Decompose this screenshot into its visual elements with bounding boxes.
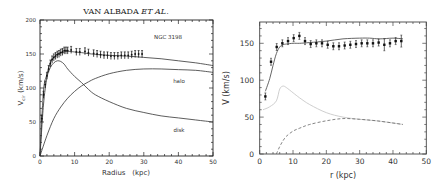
data-point [338,45,340,47]
dark-component-curve [276,119,403,154]
svg-text:10: 10 [71,158,79,165]
svg-text:0: 0 [257,157,262,166]
svg-text:20: 20 [322,157,332,166]
svg-text:0: 0 [38,158,42,165]
svg-text:30: 30 [355,157,365,166]
data-point [377,41,379,43]
disk-curve [40,61,213,156]
svg-text:30: 30 [140,158,148,165]
data-point [120,54,122,56]
data-point [67,50,69,52]
data-point [315,42,317,44]
data-point [84,50,86,52]
data-point [134,53,136,55]
right-y-axis-label: V (km/s) [222,71,231,105]
data-point [124,54,126,56]
data-point [389,42,391,44]
right-data-points [264,32,402,100]
left-y-tick-labels: 0 50 100 150 200 [26,17,37,159]
data-point [343,44,345,46]
figure: VAN ALBADA ET AL. 0 10 20 30 40 50 0 50 … [0,0,445,190]
data-point [70,49,72,51]
data-point [110,55,112,57]
right-x-axis-label: r (kpc) [330,171,356,180]
data-point [65,50,67,52]
left-curves [40,51,213,156]
data-point [63,50,65,52]
svg-text:100: 100 [240,76,255,85]
data-point [41,118,43,120]
disk-label: disk [173,127,185,133]
halo-curve [40,69,213,156]
data-point [360,42,362,44]
data-point [332,45,334,47]
right-y-tick-labels: 0 50 100 150 [240,39,255,159]
stellar-gas-curve [263,86,403,124]
data-point [100,54,102,56]
right-x-tick-labels: 0 10 20 30 40 50 [257,157,431,166]
right-curves [263,38,403,154]
svg-text:10: 10 [288,157,298,166]
data-point [372,42,374,44]
data-point [321,42,323,44]
svg-text:150: 150 [26,51,37,57]
data-point [394,40,396,42]
data-point [62,51,64,53]
right-chart: 0 10 20 30 40 50 0 50 100 150 r (kpc) V … [222,22,431,180]
left-y-axis-label: Vcir (km/s) [17,70,26,105]
svg-text:0: 0 [249,150,254,159]
svg-text:40: 40 [388,157,398,166]
left-x-tick-labels: 0 10 20 30 40 50 [38,158,217,165]
svg-text:50: 50 [29,119,36,125]
data-point [138,53,140,55]
halo-label: halo [173,78,185,84]
data-point [88,52,90,54]
galaxy-annotation: NGC 3198 [154,34,182,40]
svg-text:50: 50 [422,157,432,166]
svg-text:50: 50 [209,158,217,165]
data-point [292,37,294,39]
data-point [75,51,77,53]
data-point [309,43,311,45]
data-point [55,55,57,57]
data-point [48,68,50,70]
data-point [51,59,53,61]
data-point [366,42,368,44]
data-point [281,42,283,44]
left-data-points [41,46,143,122]
data-point [270,61,272,63]
left-ticks [40,20,213,156]
data-point [400,40,402,42]
data-point [56,54,58,56]
data-point [43,94,45,96]
data-point [275,46,277,48]
data-point [355,43,357,45]
data-point [298,35,300,37]
data-point [96,53,98,55]
data-point [141,53,143,55]
svg-text:0: 0 [33,153,37,159]
data-point [287,40,289,42]
svg-text:50: 50 [244,113,254,122]
data-point [107,54,109,56]
data-point [93,52,95,54]
svg-text:40: 40 [175,158,183,165]
left-title: VAN ALBADA ET AL. [82,7,168,16]
svg-text:200: 200 [26,17,37,23]
data-point [49,63,51,65]
data-point [53,57,55,59]
data-point [326,44,328,46]
data-point [79,51,81,53]
svg-text:20: 20 [105,158,113,165]
data-point [113,55,115,57]
data-point [349,44,351,46]
left-x-axis-label: Radius (kpc) [102,169,150,177]
data-point [131,54,133,56]
data-point [58,53,60,55]
left-chart: VAN ALBADA ET AL. 0 10 20 30 40 50 0 50 … [17,7,217,177]
left-plot-frame [40,20,213,156]
data-point [127,54,129,56]
data-point [60,52,62,54]
data-point [264,95,266,97]
data-point [46,75,48,77]
